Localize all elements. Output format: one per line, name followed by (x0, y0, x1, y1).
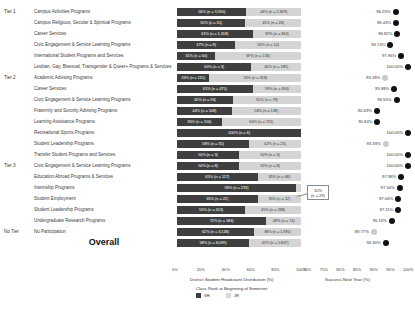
bar-segment-sr[interactable]: 58% (n = 35) (177, 140, 249, 148)
success-dot[interactable] (405, 152, 411, 158)
table-row[interactable]: Lesbian, Gay, Bisexual, Transgender & Qu… (0, 61, 415, 72)
stacked-bar[interactable]: 62% (n = 3,148)38% (n = 1,981) (177, 228, 301, 236)
success-dot[interactable] (371, 229, 377, 235)
table-row[interactable]: Internship Programs96% (n = 233)97.54% (0, 182, 415, 193)
bar-segment-jr[interactable]: 40% (n = 185) (251, 63, 301, 71)
table-row[interactable]: Student Leadership Programs55% (n = 413)… (0, 204, 415, 215)
success-dot[interactable] (395, 207, 401, 213)
stacked-bar[interactable]: 47% (n = 8)53% (n = 10) (177, 41, 301, 49)
success-dot[interactable] (382, 75, 388, 81)
bar-segment-sr[interactable]: 100% (n = 6) (177, 129, 301, 137)
bar-segment-sr[interactable]: 55% (n = 31) (177, 19, 245, 27)
bar-segment-jr[interactable]: 35% (n = 12) (258, 195, 301, 203)
stacked-bar[interactable]: 36% (n = 156)64% (n = 721) (177, 118, 301, 126)
stacked-bar[interactable]: 61% (n = 1,318)39% (n = 844) (177, 30, 301, 38)
bar-segment-sr[interactable]: 50% (n = 3) (177, 151, 239, 159)
bar-segment-sr[interactable]: 50% (n = 8) (177, 162, 239, 170)
bar-segment-sr[interactable]: 36% (n = 156) (177, 118, 222, 126)
bar-segment-jr[interactable]: 50% (n = 8) (239, 162, 301, 170)
bar-segment-sr[interactable]: 47% (n = 8) (177, 41, 235, 49)
success-dot[interactable] (393, 9, 399, 15)
bar-segment-jr[interactable]: 74% (n = 318) (209, 74, 301, 82)
stacked-bar[interactable]: 45% (n = 94)55% (n = 78) (177, 96, 301, 104)
success-dot[interactable] (395, 196, 401, 202)
stacked-bar[interactable]: 96% (n = 233) (177, 184, 301, 192)
table-row[interactable]: Civic Engagement & Service Learning Prog… (0, 94, 415, 105)
success-dot[interactable] (389, 218, 395, 224)
bar-segment-jr[interactable]: 69% (n = 136) (215, 52, 301, 60)
table-row[interactable]: Campus Religious, Secular & Spiritual Pr… (0, 17, 415, 28)
table-row[interactable]: Career Services61% (n = 475)39% (n = 494… (0, 83, 415, 94)
table-row[interactable]: Tier 3Civic Engagement & Service Learnin… (0, 160, 415, 171)
bar-segment-jr[interactable]: 56% (n = 138) (232, 107, 301, 115)
stacked-bar[interactable]: 50% (n = 8)50% (n = 8) (177, 162, 301, 170)
success-dot[interactable] (394, 31, 400, 37)
stacked-bar[interactable]: 65% (n = 127)35% (n = 68) (177, 173, 301, 181)
bar-segment-sr[interactable]: 96% (n = 233) (177, 184, 296, 192)
success-dot[interactable] (405, 163, 411, 169)
stacked-bar[interactable]: 72% (n = 184)28% (n = 74) (177, 217, 301, 225)
legend-item-sr[interactable]: SR (196, 293, 210, 298)
stacked-bar[interactable]: 44% (n = 108)56% (n = 138) (177, 107, 301, 115)
table-row[interactable]: Student Employment65% (n = 22)35% (n = 1… (0, 193, 415, 204)
legend-item-jr[interactable]: JR (226, 293, 239, 298)
success-dot[interactable] (374, 108, 380, 114)
bar-segment-sr[interactable]: 60% (n = 3) (177, 63, 251, 71)
table-row[interactable]: Career Services61% (n = 1,318)39% (n = 8… (0, 28, 415, 39)
bar-segment-jr[interactable]: 55% (n = 78) (233, 96, 301, 104)
bar-segment-jr[interactable]: 45% (n = 288) (245, 206, 301, 214)
overall-row[interactable]: Overall58% (n = 8,099)42% (n = 5,847)93.… (0, 237, 415, 248)
stacked-bar[interactable]: 31% (n = 60)69% (n = 136) (177, 52, 301, 60)
bar-segment-jr[interactable]: 39% (n = 844) (253, 30, 301, 38)
bar-segment-sr[interactable]: 44% (n = 108) (177, 107, 232, 115)
table-row[interactable]: Fraternity and Sorority Advising Program… (0, 105, 415, 116)
success-dot[interactable] (383, 240, 389, 246)
bar-segment-sr[interactable]: 65% (n = 127) (177, 173, 258, 181)
bar-segment-sr[interactable]: 62% (n = 3,148) (177, 228, 254, 236)
bar-segment-jr[interactable]: 44% (n = 2,829) (246, 8, 301, 16)
table-row[interactable]: No TierNo Participation62% (n = 3,148)38… (0, 226, 415, 237)
bar-segment-sr[interactable]: 65% (n = 22) (177, 195, 258, 203)
table-row[interactable]: Transfer Student Programs and Services50… (0, 149, 415, 160)
table-row[interactable]: Recreational Sports Programs100% (n = 6)… (0, 127, 415, 138)
success-dot[interactable] (393, 20, 399, 26)
bar-segment-jr[interactable]: 64% (n = 721) (222, 118, 301, 126)
success-dot[interactable] (383, 141, 389, 147)
success-dot[interactable] (405, 130, 411, 136)
table-row[interactable]: Student Leadership Programs58% (n = 35)4… (0, 138, 415, 149)
bar-segment-jr[interactable]: 50% (n = 3) (239, 151, 301, 159)
bar-segment-sr[interactable]: 72% (n = 184) (177, 217, 266, 225)
stacked-bar[interactable]: 61% (n = 475)39% (n = 494) (177, 85, 301, 93)
stacked-bar[interactable]: 55% (n = 31)45% (n = 26) (177, 19, 301, 27)
bar-segment-sr[interactable]: 31% (n = 60) (177, 52, 215, 60)
bar-segment-sr[interactable]: 56% (n = 3,590) (177, 8, 246, 16)
table-row[interactable]: Education Abroad Programs & Services65% … (0, 171, 415, 182)
table-row[interactable]: International Student Programs and Servi… (0, 50, 415, 61)
success-dot[interactable] (405, 64, 411, 70)
success-dot[interactable] (397, 185, 403, 191)
table-row[interactable]: Learning Assistance Programs36% (n = 156… (0, 116, 415, 127)
success-dot[interactable] (398, 174, 404, 180)
bar-segment-sr[interactable]: 61% (n = 475) (177, 85, 253, 93)
bar-segment-jr[interactable]: 42% (n = 5,847) (249, 239, 301, 247)
bar-segment-sr[interactable]: 61% (n = 1,318) (177, 30, 253, 38)
bar-segment-sr[interactable]: 45% (n = 94) (177, 96, 233, 104)
bar-segment-jr[interactable]: 35% (n = 68) (258, 173, 301, 181)
stacked-bar[interactable]: 50% (n = 3)50% (n = 3) (177, 151, 301, 159)
bar-segment-jr[interactable]: 42% (n = 25) (249, 140, 301, 148)
stacked-bar[interactable]: 26% (n = 115)74% (n = 318) (177, 74, 301, 82)
success-dot[interactable] (387, 42, 393, 48)
bar-segment-jr[interactable]: 39% (n = 494) (253, 85, 301, 93)
success-dot[interactable] (391, 86, 397, 92)
table-row[interactable]: Undergraduate Research Programs72% (n = … (0, 215, 415, 226)
stacked-bar[interactable]: 58% (n = 35)42% (n = 25) (177, 140, 301, 148)
bar-segment-jr[interactable]: 28% (n = 74) (266, 217, 301, 225)
bar-segment-jr[interactable]: 45% (n = 26) (245, 19, 301, 27)
stacked-bar[interactable]: 60% (n = 3)40% (n = 185) (177, 63, 301, 71)
bar-segment-sr[interactable]: 55% (n = 413) (177, 206, 245, 214)
table-row[interactable]: Civic Engagement & Service Learning Prog… (0, 39, 415, 50)
table-row[interactable]: Tier 2Academic Advising Programs26% (n =… (0, 72, 415, 83)
stacked-bar[interactable]: 55% (n = 413)45% (n = 288) (177, 206, 301, 214)
bar-segment-jr[interactable] (296, 184, 301, 192)
success-dot[interactable] (398, 53, 404, 59)
